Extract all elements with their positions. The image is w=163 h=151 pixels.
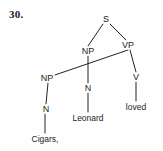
tree-node-n_left: N: [42, 105, 51, 114]
tree-edge-s-to-vp: [110, 24, 126, 40]
tree-node-np_top: NP: [81, 47, 96, 56]
tree-terminal-loved: loved: [126, 103, 146, 112]
tree-node-vp: VP: [121, 41, 135, 50]
syntax-tree-figure: 30. SNPVPNPNNVCigars,Leonardloved: [0, 0, 163, 151]
tree-node-v: V: [132, 73, 140, 82]
tree-node-np_left: NP: [40, 74, 55, 83]
tree-terminal-cigars: Cigars,: [32, 135, 59, 144]
tree-edge-s-to-np_top: [88, 24, 103, 46]
tree-terminal-leonard: Leonard: [72, 114, 103, 123]
tree-node-s: S: [102, 15, 110, 24]
tree-edge-np_left-to-n_left: [46, 83, 48, 104]
tree-edge-vp-to-v: [130, 50, 136, 72]
tree-node-n_mid: N: [84, 84, 93, 93]
